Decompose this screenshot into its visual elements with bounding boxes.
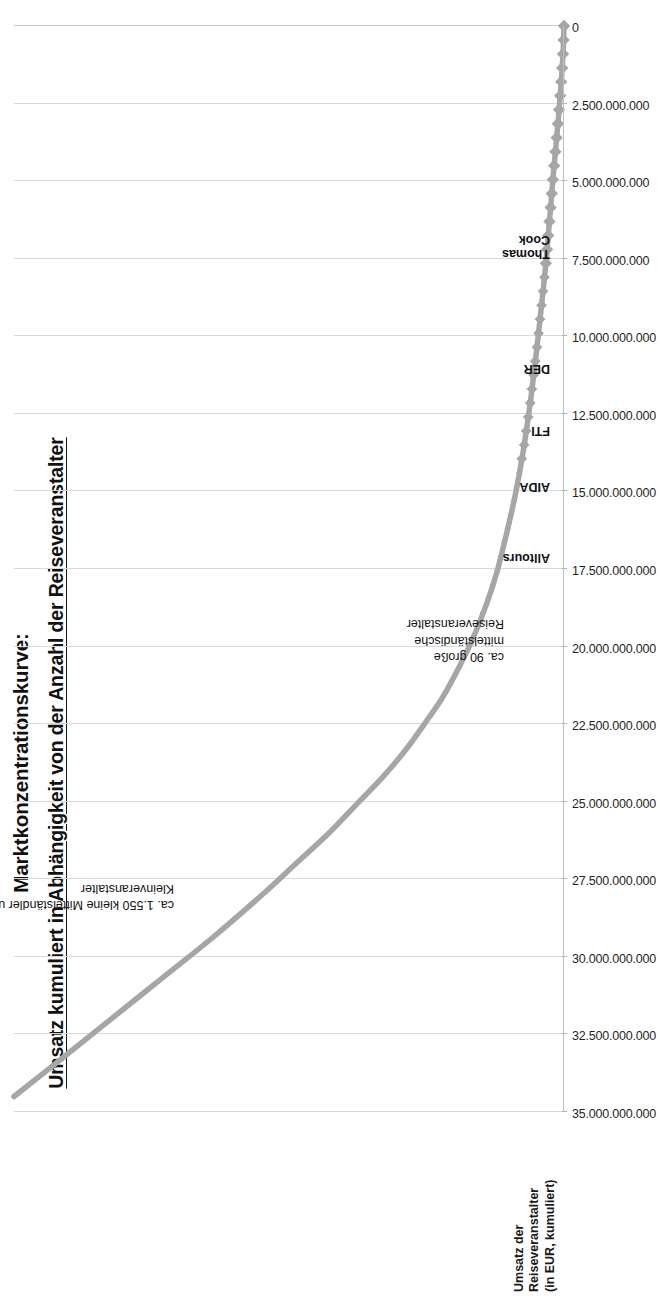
data-marker: [543, 215, 555, 227]
tick-label: 30.000.000.000: [572, 952, 656, 966]
point-label-fti: FTI: [531, 424, 550, 438]
tick-label: 12.500.000.000: [572, 409, 656, 423]
tick-label: 35.000.000.000: [572, 1107, 656, 1121]
rotated-figure-canvas: Marktkonzentrationskurve: Umsatz kumulie…: [0, 0, 664, 1298]
data-marker: [539, 272, 550, 283]
data-marker: [548, 159, 560, 171]
point-label-line: Cook: [502, 233, 550, 247]
annotation-small-line1: ca. 1.550 kleine Mittelständler und: [0, 897, 174, 913]
annotation-medium-line1: ca. 90 große: [304, 649, 504, 665]
data-marker: [546, 187, 558, 199]
data-marker: [547, 173, 559, 185]
tick-label: 2.500.000.000: [572, 99, 649, 113]
point-label-der: DER: [524, 362, 550, 376]
annotation-medium-line3: Reiseveranstalter: [304, 616, 504, 632]
data-marker: [554, 90, 566, 102]
data-marker: [550, 132, 562, 144]
tick-label: 7.500.000.000: [572, 254, 649, 268]
tick-label: 15.000.000.000: [572, 486, 656, 500]
curve-path: [14, 26, 564, 1096]
chart-page: Marktkonzentrationskurve: Umsatz kumulie…: [0, 0, 664, 1298]
tick-label: 22.500.000.000: [572, 719, 656, 733]
y-axis-title-unit: (in EUR, kumuliert): [543, 1116, 558, 1292]
annotation-medium-operators: ca. 90 große mittelständische Reiseveran…: [304, 616, 504, 665]
point-label-alltours: Alltours: [503, 551, 550, 565]
tick-label: 10.000.000.000: [572, 331, 656, 345]
tick-label: 0: [572, 21, 579, 35]
plot-area: [14, 26, 564, 1112]
tick-label: 20.000.000.000: [572, 642, 656, 656]
x-axis-line: [563, 26, 564, 1112]
data-marker: [519, 439, 530, 450]
y-axis-title-line1: Umsatz der: [512, 1116, 527, 1292]
tick-label: 17.500.000.000: [572, 564, 656, 578]
point-label-line: AIDA: [519, 480, 550, 494]
data-marker: [523, 412, 534, 423]
data-marker: [544, 201, 556, 213]
data-point-markers: [480, 20, 570, 616]
point-label-line: Thomas: [502, 247, 550, 261]
y-axis-title-line2: Reiseveranstalter: [527, 1116, 542, 1292]
point-label-thomas-cook: ThomasCook: [502, 233, 550, 261]
data-marker: [538, 286, 549, 297]
data-marker: [535, 314, 546, 325]
y-axis-title: Umsatz der Reiseveranstalter (in EUR, ku…: [512, 1116, 558, 1292]
data-marker: [536, 300, 547, 311]
annotation-small-line2: Kleinveranstalter: [0, 881, 174, 897]
data-marker: [532, 342, 543, 353]
data-marker: [521, 426, 532, 437]
annotation-medium-line2: mittelständische: [304, 633, 504, 649]
point-label-line: FTI: [531, 424, 550, 438]
data-marker: [527, 384, 538, 395]
data-marker: [533, 328, 544, 339]
point-label-aida: AIDA: [519, 480, 550, 494]
data-marker: [516, 453, 527, 464]
data-marker: [558, 20, 570, 32]
data-marker: [549, 145, 561, 157]
tick-label: 25.000.000.000: [572, 797, 656, 811]
point-label-line: DER: [524, 362, 550, 376]
tick-label: 5.000.000.000: [572, 176, 649, 190]
data-marker: [555, 76, 567, 88]
concentration-curve: [14, 26, 564, 1112]
data-marker: [525, 398, 536, 409]
tick-label: 32.500.000.000: [572, 1029, 656, 1043]
annotation-small-operators: ca. 1.550 kleine Mittelständler und Klei…: [0, 881, 174, 914]
point-label-line: Alltours: [503, 551, 550, 565]
tick-label: 27.500.000.000: [572, 874, 656, 888]
